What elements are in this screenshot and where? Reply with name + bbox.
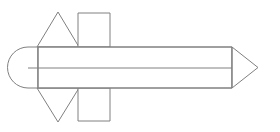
figure-canvas: Rocket profile line drawing Technical ou… <box>0 0 280 132</box>
top-rectangular-fin <box>78 13 110 47</box>
top-triangular-fin <box>37 12 79 47</box>
bottom-rectangular-fin <box>78 88 110 121</box>
bottom-triangular-fin <box>37 88 79 122</box>
nose-tip <box>232 47 258 88</box>
rocket-profile-diagram: Rocket profile line drawing Technical ou… <box>0 0 280 132</box>
